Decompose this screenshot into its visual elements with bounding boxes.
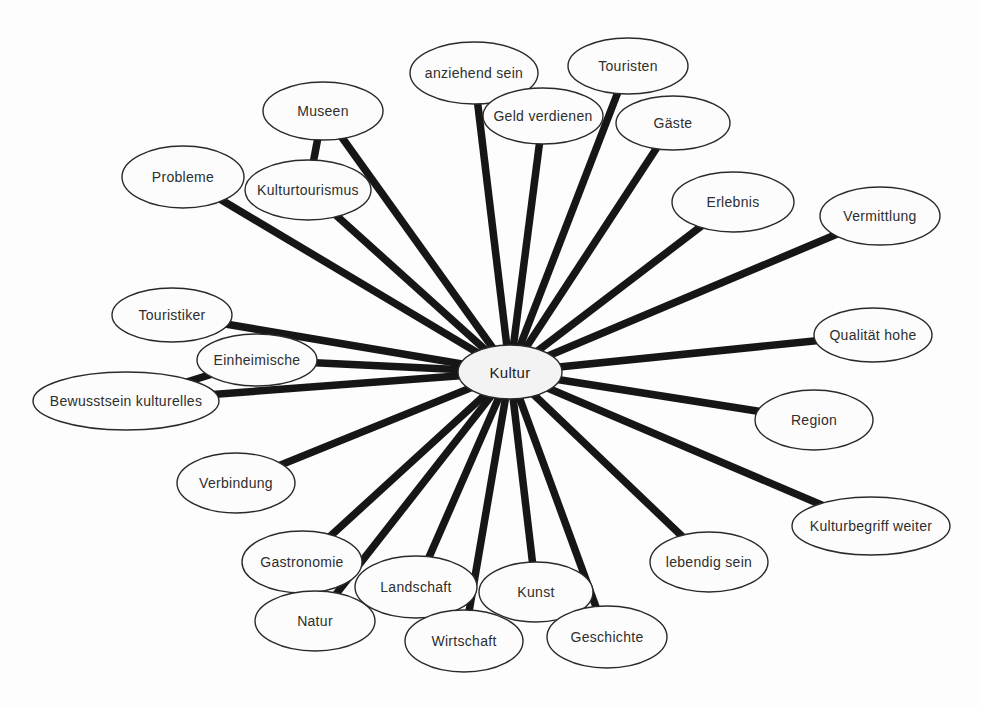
node-vermittlung: Vermittlung: [820, 187, 940, 245]
node-label: Region: [791, 412, 837, 428]
node-kulturbegriff-weiter: Kulturbegriff weiter: [792, 497, 950, 555]
node-lebendig-sein: lebendig sein: [650, 532, 768, 592]
node-label: Touristiker: [138, 307, 205, 323]
node-label: Einheimische: [214, 352, 301, 368]
node-bewusstsein-kulturelles: Bewusstsein kulturelles: [33, 372, 219, 430]
concept-map-page: anziehend seinTouristenMuseenGeld verdie…: [0, 0, 981, 706]
node-natur: Natur: [255, 591, 375, 651]
node-label: Bewusstsein kulturelles: [50, 393, 202, 409]
node-geld-verdienen: Geld verdienen: [483, 88, 603, 144]
node-label: Natur: [297, 613, 333, 629]
node-probleme: Probleme: [122, 146, 244, 208]
node-label: Landschaft: [380, 579, 452, 595]
node-erlebnis: Erlebnis: [672, 172, 794, 232]
node-label: anziehend sein: [425, 65, 523, 81]
center-node-label: Kultur: [490, 364, 531, 381]
node-label: Vermittlung: [843, 208, 916, 224]
node-einheimische: Einheimische: [197, 334, 317, 386]
node-label: Gastronomie: [260, 554, 343, 570]
node-label: Geld verdienen: [493, 108, 592, 124]
node-label: Erlebnis: [707, 194, 760, 210]
node-gaeste: Gäste: [616, 96, 730, 150]
node-touristen: Touristen: [568, 38, 688, 94]
node-label: Kulturbegriff weiter: [810, 518, 933, 534]
node-landschaft: Landschaft: [355, 556, 477, 618]
node-label: Kunst: [517, 584, 554, 600]
node-region: Region: [755, 390, 873, 450]
concept-map: anziehend seinTouristenMuseenGeld verdie…: [0, 0, 981, 706]
node-verbindung: Verbindung: [177, 453, 295, 513]
node-kulturtourismus: Kulturtourismus: [245, 160, 371, 220]
node-qualitaet-hohe: Qualität hohe: [814, 308, 932, 362]
node-label: Museen: [297, 103, 349, 119]
node-layer: anziehend seinTouristenMuseenGeld verdie…: [33, 38, 950, 672]
node-label: Gäste: [654, 115, 693, 131]
node-label: lebendig sein: [666, 554, 752, 570]
node-label: Wirtschaft: [431, 633, 496, 649]
node-label: Verbindung: [199, 475, 273, 491]
node-kultur: Kultur: [458, 345, 562, 399]
node-touristiker: Touristiker: [112, 288, 232, 342]
node-label: Qualität hohe: [829, 327, 916, 343]
node-label: Kulturtourismus: [257, 182, 359, 198]
node-geschichte: Geschichte: [547, 606, 667, 668]
node-museen: Museen: [263, 82, 383, 140]
node-label: Geschichte: [570, 629, 643, 645]
node-label: Touristen: [598, 58, 658, 74]
node-gastronomie: Gastronomie: [242, 531, 362, 593]
node-wirtschaft: Wirtschaft: [405, 610, 523, 672]
node-label: Probleme: [152, 169, 214, 185]
